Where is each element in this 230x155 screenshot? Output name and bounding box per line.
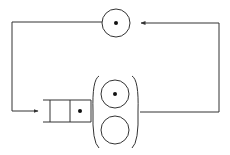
right-bracket: [132, 76, 138, 148]
server-1: [101, 80, 129, 108]
edge-station-to-top: [140, 23, 219, 112]
job-token: [113, 92, 117, 96]
fifo-queue: [43, 100, 91, 122]
server-2: [101, 116, 129, 144]
left-bracket: [93, 76, 99, 148]
multi-server-station: [93, 76, 138, 148]
top-station: [102, 9, 130, 37]
job-token: [78, 109, 82, 113]
queueing-network-diagram: [0, 0, 230, 155]
edge-top-to-queue: [12, 22, 102, 111]
job-token: [114, 21, 118, 25]
